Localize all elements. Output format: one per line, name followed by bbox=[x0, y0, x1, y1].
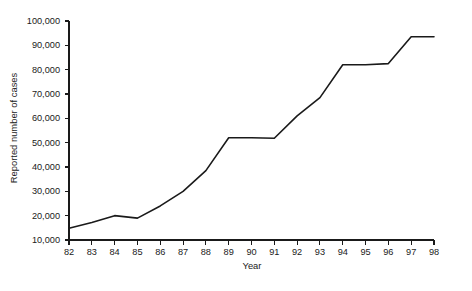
y-axis-title: Reported number of cases bbox=[8, 72, 19, 183]
x-axis-tick-label: 83 bbox=[87, 247, 97, 257]
y-axis-tick-label: 30,000 bbox=[32, 186, 60, 196]
y-axis-tick-label: 80,000 bbox=[32, 65, 60, 75]
x-axis-tick-label: 98 bbox=[429, 247, 439, 257]
line-chart: 10,00020,00030,00040,00050,00060,00070,0… bbox=[0, 0, 472, 291]
chart-canvas: 10,00020,00030,00040,00050,00060,00070,0… bbox=[0, 0, 472, 291]
x-axis-tick-label: 92 bbox=[292, 247, 302, 257]
x-axis-tick-label: 95 bbox=[360, 247, 370, 257]
y-axis-ticks bbox=[65, 21, 70, 240]
y-axis-tick-label: 60,000 bbox=[32, 113, 60, 123]
x-axis-tick-label: 96 bbox=[383, 247, 393, 257]
x-axis-tick-label: 93 bbox=[315, 247, 325, 257]
x-axis-tick-label: 86 bbox=[155, 247, 165, 257]
x-axis-tick-label: 84 bbox=[110, 247, 120, 257]
x-axis-title: Year bbox=[243, 260, 262, 271]
y-axis-tick-label: 40,000 bbox=[32, 162, 60, 172]
x-axis-tick-label: 91 bbox=[269, 247, 279, 257]
y-axis-tick-label: 10,000 bbox=[32, 235, 60, 245]
x-axis-tick-label: 97 bbox=[406, 247, 416, 257]
x-axis-tick-label: 89 bbox=[224, 247, 234, 257]
y-axis-tick-label: 100,000 bbox=[27, 16, 60, 26]
x-axis-tick-label: 90 bbox=[246, 247, 256, 257]
x-axis-tick-label: 85 bbox=[132, 247, 142, 257]
x-axis-tick-label: 94 bbox=[338, 247, 348, 257]
x-axis-tick-label: 82 bbox=[64, 247, 74, 257]
x-axis-tick-labels: 8283848586878889909192939495969798 bbox=[64, 247, 439, 257]
y-axis-tick-label: 20,000 bbox=[32, 211, 60, 221]
y-axis-tick-label: 50,000 bbox=[32, 138, 60, 148]
x-axis-ticks bbox=[69, 240, 434, 245]
y-axis-tick-label: 70,000 bbox=[32, 89, 60, 99]
y-axis-tick-label: 90,000 bbox=[32, 40, 60, 50]
y-axis-tick-labels: 10,00020,00030,00040,00050,00060,00070,0… bbox=[27, 16, 60, 245]
x-axis-tick-label: 88 bbox=[201, 247, 211, 257]
data-series-line bbox=[69, 37, 434, 229]
x-axis-tick-label: 87 bbox=[178, 247, 188, 257]
